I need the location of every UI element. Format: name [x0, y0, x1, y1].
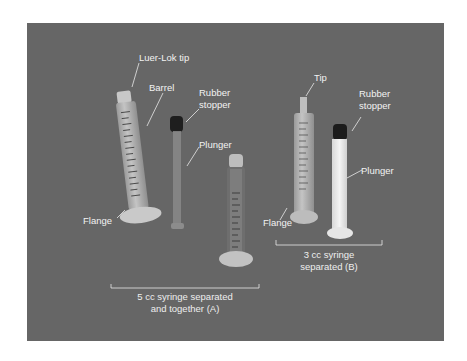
label-rubber-stopper-a-line2: stopper: [199, 99, 231, 111]
label-rubber-stopper-b-line1: Rubber: [359, 88, 391, 100]
label-flange-a: Flange: [83, 215, 112, 227]
label-rubber-stopper-a: Rubber stopper: [199, 87, 231, 111]
caption-a-line2: and together (A): [110, 303, 260, 315]
caption-a: 5 cc syringe separated and together (A): [110, 291, 260, 315]
label-barrel: Barrel: [149, 82, 174, 94]
syringe-a-assembled: [219, 154, 253, 267]
syringe-a-plunger: [170, 116, 184, 229]
caption-b-line1: 3 cc syringe: [279, 249, 379, 261]
label-luer-lok-tip: Luer-Lok tip: [139, 52, 189, 64]
syringe-a-barrel: [105, 88, 163, 225]
label-rubber-stopper-b-line2: stopper: [359, 100, 391, 112]
caption-b-line2: separated (B): [279, 261, 379, 273]
syringe-b-plunger: [327, 124, 353, 239]
label-flange-b: Flange: [263, 217, 292, 229]
caption-b: 3 cc syringe separated (B): [279, 249, 379, 273]
syringe-b-barrel: [290, 97, 318, 224]
label-rubber-stopper-b: Rubber stopper: [359, 88, 391, 112]
label-rubber-stopper-a-line1: Rubber: [199, 87, 231, 99]
label-tip: Tip: [314, 72, 327, 84]
syringe-photo: Luer-Lok tip Barrel Rubber stopper Plung…: [27, 23, 444, 341]
label-plunger-b: Plunger: [361, 165, 394, 177]
label-plunger-a: Plunger: [199, 139, 232, 151]
caption-a-line1: 5 cc syringe separated: [110, 291, 260, 303]
